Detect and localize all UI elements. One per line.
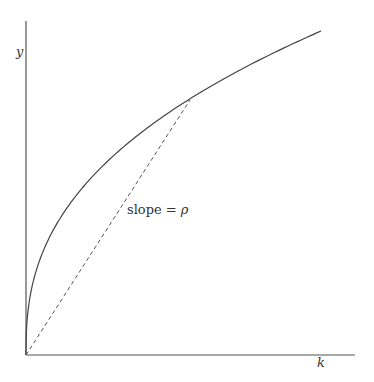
slope-label-text: slope = xyxy=(127,202,181,217)
rho-symbol: ρ xyxy=(180,202,189,217)
slope-label: slope = ρ xyxy=(127,202,189,217)
slope-ray xyxy=(26,100,190,355)
y-axis-label: y xyxy=(15,44,24,59)
production-curve xyxy=(26,31,321,355)
x-axis-label: k xyxy=(317,355,325,370)
diagram: y k slope = ρ xyxy=(0,0,374,382)
